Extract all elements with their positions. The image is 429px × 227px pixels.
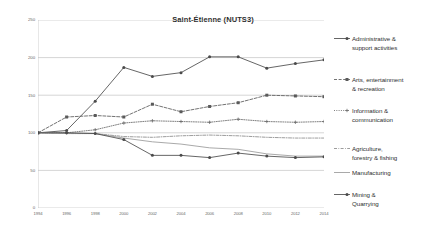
legend-label: Manufacturing	[352, 168, 391, 177]
series-marker	[265, 120, 268, 123]
series-marker	[237, 101, 240, 104]
legend-label: Agriculture, forestry & fishing	[352, 144, 397, 162]
series-marker	[237, 118, 240, 121]
plot-area	[38, 20, 324, 208]
series-marker	[294, 94, 297, 97]
x-tick-label: 2012	[284, 211, 306, 216]
series-marker	[323, 58, 325, 61]
series-marker	[323, 95, 325, 98]
y-tick-label: 100	[19, 130, 35, 135]
series-marker	[208, 105, 211, 108]
y-tick-label: 250	[19, 17, 35, 22]
series-line-4	[38, 133, 324, 156]
legend-entry[interactable]: Arts, entertainment & recreation	[334, 75, 403, 93]
series-marker	[65, 131, 68, 134]
y-tick-label: 200	[19, 55, 35, 60]
series-marker	[151, 75, 154, 78]
series-marker	[151, 154, 154, 157]
y-tick-label: 50	[19, 168, 35, 173]
series-marker	[94, 128, 97, 131]
series-marker	[208, 156, 211, 159]
series-marker	[94, 132, 97, 135]
legend-entry[interactable]: Information & communication	[334, 106, 393, 124]
legend-entry[interactable]: Manufacturing	[334, 168, 391, 177]
legend-swatch-icon	[334, 34, 350, 43]
chart-figure: Saint-Étienne (NUTS3) 250200150100500 19…	[0, 0, 429, 227]
series-marker	[151, 119, 154, 122]
y-tick-label: 150	[19, 93, 35, 98]
legend-label: Administrative & support activities	[352, 34, 397, 52]
legend-entry[interactable]: Agriculture, forestry & fishing	[334, 144, 397, 162]
x-tick-label: 1996	[56, 211, 78, 216]
x-tick-label: 1998	[84, 211, 106, 216]
series-marker	[265, 155, 268, 158]
legend-swatch-icon	[334, 106, 350, 115]
series-marker	[122, 121, 125, 124]
plot-svg	[38, 20, 324, 208]
x-tick-label: 2002	[141, 211, 163, 216]
x-tick-label: 2008	[227, 211, 249, 216]
series-marker	[265, 94, 268, 97]
chart-legend: Administrative & support activitiesArts,…	[334, 20, 429, 210]
legend-entry[interactable]: Mining & Quarrying	[334, 190, 379, 208]
series-marker	[151, 103, 154, 106]
series-marker	[122, 116, 125, 119]
series-marker	[208, 55, 211, 58]
series-line-1	[38, 95, 324, 133]
x-tick-label: 2010	[256, 211, 278, 216]
legend-label: Arts, entertainment & recreation	[352, 75, 403, 93]
series-marker	[294, 121, 297, 124]
x-tick-label: 2014	[313, 211, 335, 216]
series-marker	[294, 156, 297, 159]
series-marker	[180, 154, 183, 157]
y-tick-label: 0	[19, 205, 35, 210]
legend-label: Information & communication	[352, 106, 393, 124]
series-marker	[294, 62, 297, 65]
x-tick-label: 2000	[113, 211, 135, 216]
legend-swatch-icon	[334, 168, 350, 177]
series-marker	[180, 110, 183, 113]
legend-swatch-icon	[334, 190, 350, 199]
series-marker	[65, 116, 68, 119]
series-marker	[237, 55, 240, 58]
series-marker	[180, 71, 183, 74]
legend-swatch-icon	[334, 144, 350, 153]
series-marker	[94, 100, 97, 103]
legend-swatch-icon	[334, 75, 350, 84]
x-tick-label: 2004	[170, 211, 192, 216]
series-marker	[265, 67, 268, 70]
x-tick-label: 2006	[199, 211, 221, 216]
series-marker	[94, 114, 97, 117]
x-tick-label: 1994	[27, 211, 49, 216]
series-marker	[122, 66, 125, 69]
series-marker	[322, 120, 324, 123]
series-marker	[122, 138, 125, 141]
series-marker	[208, 121, 211, 124]
legend-entry[interactable]: Administrative & support activities	[334, 34, 397, 52]
series-marker	[179, 120, 182, 123]
series-marker	[237, 152, 240, 155]
legend-label: Mining & Quarrying	[352, 190, 379, 208]
